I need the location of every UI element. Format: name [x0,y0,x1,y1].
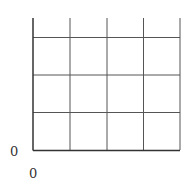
chart-canvas: 0 0 [0,0,189,184]
x-origin-label: 0 [29,166,37,181]
grid [33,18,180,150]
y-origin-label: 0 [10,144,18,159]
